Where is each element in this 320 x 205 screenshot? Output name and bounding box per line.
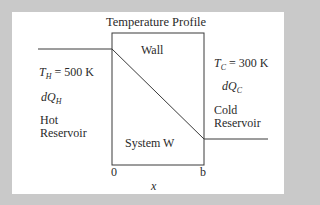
- cold-temp-symbol: T: [214, 56, 221, 70]
- temperature-gradient-line: [112, 49, 204, 139]
- hot-heat-label: dQH: [41, 91, 61, 104]
- cold-heat-sub: C: [237, 86, 242, 95]
- axis-start-label: 0: [111, 166, 117, 179]
- hot-heat-symbol: dQ: [41, 90, 56, 104]
- axis-end-label: b: [200, 166, 206, 179]
- cold-reservoir-label: Cold Reservoir: [214, 104, 261, 130]
- cold-reservoir-line2: Reservoir: [214, 117, 261, 130]
- diagram-title: Temperature Profile: [106, 16, 206, 29]
- cold-temp-value: = 300 K: [226, 56, 268, 70]
- wall-label: Wall: [141, 44, 163, 57]
- system-label: System W: [125, 137, 174, 150]
- cold-heat-label: dQC: [222, 80, 242, 93]
- cold-temperature-label: TC = 300 K: [214, 57, 268, 70]
- axis-x-label: x: [151, 180, 156, 193]
- cold-heat-symbol: dQ: [222, 79, 237, 93]
- hot-reservoir-label: Hot Reservoir: [40, 114, 87, 140]
- hot-temp-value: = 500 K: [51, 65, 93, 79]
- hot-heat-sub: H: [56, 97, 62, 106]
- hot-reservoir-line2: Reservoir: [40, 127, 87, 140]
- hot-temperature-label: TH = 500 K: [39, 66, 94, 79]
- hot-temp-symbol: T: [39, 65, 46, 79]
